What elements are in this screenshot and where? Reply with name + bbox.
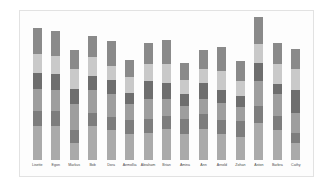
bar-stack[interactable] [107, 41, 116, 160]
bar-segment[interactable] [70, 89, 79, 105]
bar-segment[interactable] [273, 43, 282, 64]
bar-segment[interactable] [199, 129, 208, 160]
bar-segment[interactable] [70, 50, 79, 69]
bar-column[interactable]: Markus [65, 17, 83, 170]
bar-segment[interactable] [144, 119, 153, 133]
bar-segment[interactable] [88, 36, 97, 57]
bar-segment[interactable] [162, 40, 171, 64]
bar-segment[interactable] [217, 103, 226, 120]
bar-segment[interactable] [33, 126, 42, 160]
bar-segment[interactable] [88, 57, 97, 76]
bar-segment[interactable] [273, 64, 282, 84]
bar-segment[interactable] [107, 130, 116, 160]
bar-segment[interactable] [236, 137, 245, 160]
bar-stack[interactable] [254, 17, 263, 160]
bar-segment[interactable] [273, 84, 282, 94]
bar-segment[interactable] [144, 133, 153, 160]
bar-segment[interactable] [273, 94, 282, 115]
bar-segment[interactable] [217, 71, 226, 90]
bar-column[interactable]: Dora [102, 17, 120, 170]
bar-column[interactable]: Zohan [231, 17, 249, 170]
bar-segment[interactable] [162, 129, 171, 160]
bar-segment[interactable] [217, 90, 226, 103]
bar-segment[interactable] [51, 74, 60, 90]
bar-segment[interactable] [217, 120, 226, 134]
bar-stack[interactable] [199, 50, 208, 160]
bar-column[interactable]: Amina [176, 17, 194, 170]
bar-stack[interactable] [236, 61, 245, 160]
bar-segment[interactable] [180, 134, 189, 160]
bar-segment[interactable] [144, 99, 153, 119]
bar-segment[interactable] [107, 94, 116, 117]
bar-column[interactable]: Barbra [268, 17, 286, 170]
bar-segment[interactable] [51, 56, 60, 75]
bar-segment[interactable] [107, 41, 116, 65]
bar-column[interactable]: Ann [194, 17, 212, 170]
bar-segment[interactable] [33, 111, 42, 125]
bar-column[interactable]: Bob [83, 17, 101, 170]
bar-segment[interactable] [254, 123, 263, 160]
bar-segment[interactable] [51, 126, 60, 160]
bar-segment[interactable] [236, 107, 245, 121]
bar-column[interactable]: Egon [46, 17, 64, 170]
bar-stack[interactable] [33, 28, 42, 160]
bar-segment[interactable] [33, 54, 42, 73]
bar-stack[interactable] [162, 40, 171, 160]
bar-stack[interactable] [51, 31, 60, 160]
bar-column[interactable]: Aston [250, 17, 268, 170]
bar-stack[interactable] [88, 36, 97, 160]
bar-segment[interactable] [217, 47, 226, 71]
bar-segment[interactable] [199, 69, 208, 83]
bar-segment[interactable] [144, 81, 153, 98]
bar-segment[interactable] [88, 76, 97, 90]
bar-segment[interactable] [70, 143, 79, 160]
bar-segment[interactable] [273, 116, 282, 130]
bar-segment[interactable] [51, 111, 60, 125]
bar-segment[interactable] [236, 81, 245, 95]
bar-segment[interactable] [291, 90, 300, 113]
bar-segment[interactable] [162, 99, 171, 116]
bar-segment[interactable] [180, 80, 189, 94]
bar-segment[interactable] [254, 17, 263, 44]
bar-segment[interactable] [144, 43, 153, 64]
bar-stack[interactable] [273, 43, 282, 160]
bar-segment[interactable] [217, 134, 226, 160]
bar-segment[interactable] [125, 120, 134, 134]
bar-stack[interactable] [144, 43, 153, 160]
bar-segment[interactable] [125, 77, 134, 93]
bar-segment[interactable] [291, 113, 300, 133]
bar-segment[interactable] [144, 64, 153, 81]
bar-segment[interactable] [199, 99, 208, 115]
bar-segment[interactable] [70, 104, 79, 130]
bar-segment[interactable] [254, 81, 263, 105]
bar-column[interactable]: Cathy [287, 17, 305, 170]
bar-stack[interactable] [180, 63, 189, 160]
bar-segment[interactable] [51, 31, 60, 55]
bar-column[interactable]: Arnold [213, 17, 231, 170]
bar-stack[interactable] [70, 50, 79, 160]
bar-column[interactable]: Aemollia [120, 17, 138, 170]
bar-segment[interactable] [70, 69, 79, 89]
bar-segment[interactable] [199, 83, 208, 99]
bar-segment[interactable] [125, 93, 134, 104]
bar-segment[interactable] [125, 134, 134, 160]
bar-segment[interactable] [199, 50, 208, 69]
bar-stack[interactable] [125, 60, 134, 160]
bar-segment[interactable] [180, 106, 189, 119]
bar-segment[interactable] [162, 83, 171, 99]
bar-segment[interactable] [291, 133, 300, 143]
bar-segment[interactable] [88, 90, 97, 113]
bar-column[interactable]: Abraham [139, 17, 157, 170]
bar-segment[interactable] [88, 113, 97, 126]
bar-segment[interactable] [254, 63, 263, 82]
bar-segment[interactable] [180, 63, 189, 80]
bar-segment[interactable] [125, 104, 134, 120]
bar-segment[interactable] [236, 121, 245, 137]
bar-segment[interactable] [291, 143, 300, 160]
bar-segment[interactable] [88, 126, 97, 160]
bar-segment[interactable] [125, 60, 134, 77]
bar-segment[interactable] [51, 90, 60, 111]
bar-segment[interactable] [273, 130, 282, 160]
bar-segment[interactable] [199, 114, 208, 128]
bar-segment[interactable] [107, 117, 116, 130]
